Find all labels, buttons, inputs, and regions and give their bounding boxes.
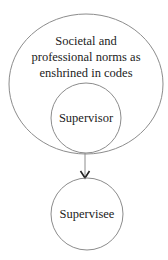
supervisee-label: Supervisee — [51, 206, 123, 222]
outer-label-line-1: Societal and — [10, 33, 162, 49]
supervisor-label: Supervisor — [51, 110, 121, 126]
outer-label-line-3: enshrined in codes — [10, 65, 162, 81]
outer-circle-label: Societal and professional norms as enshr… — [10, 33, 162, 81]
outer-label-line-2: professional norms as — [10, 49, 162, 65]
